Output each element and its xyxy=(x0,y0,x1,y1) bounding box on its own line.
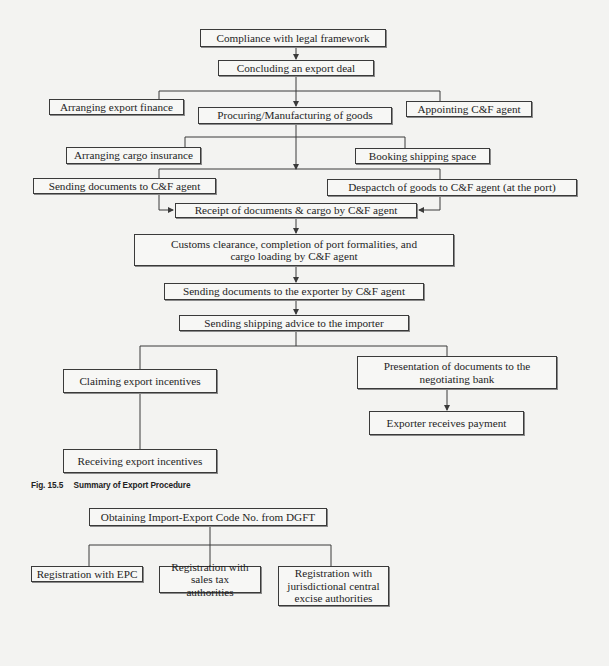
node-customs-clearance: Customs clearance, completion of port fo… xyxy=(134,234,454,266)
node-sending-docs-cf: Sending documents to C&F agent xyxy=(33,178,216,194)
node-exporter-receives-payment: Exporter receives payment xyxy=(369,411,524,435)
node-receiving-incentives: Receiving export incentives xyxy=(63,449,217,473)
figure-title: Summary of Export Procedure xyxy=(74,479,191,490)
node-compliance: Compliance with legal framework xyxy=(200,29,386,47)
figure-caption: Fig. 15.5Summary of Export Procedure xyxy=(31,479,190,490)
node-claiming-incentives: Claiming export incentives xyxy=(63,369,217,393)
node-registration-central-excise: Registration with jurisdictional central… xyxy=(278,566,389,606)
node-cargo-insurance: Arranging cargo insurance xyxy=(66,147,201,164)
node-appointing-cf-agent: Appointing C&F agent xyxy=(406,101,532,117)
node-registration-sales-tax: Registration with sales tax authorities xyxy=(159,566,261,593)
export-procedure-diagram: Compliance with legal framework Concludi… xyxy=(0,0,609,666)
node-obtaining-iec: Obtaining Import-Export Code No. from DG… xyxy=(89,508,327,526)
node-shipping-advice: Sending shipping advice to the importer xyxy=(179,315,409,331)
figure-number: Fig. 15.5 xyxy=(31,479,63,490)
node-concluding-deal: Concluding an export deal xyxy=(218,60,374,76)
node-presentation-docs-bank: Presentation of documents to the negotia… xyxy=(357,356,557,389)
node-booking-shipping-space: Booking shipping space xyxy=(355,148,490,164)
node-despatch-goods: Despactch of goods to C&F agent (at the … xyxy=(327,179,577,196)
node-export-finance: Arranging export finance xyxy=(49,99,184,115)
node-procuring-goods: Procuring/Manufacturing of goods xyxy=(198,107,392,124)
node-receipt-docs-cargo: Receipt of documents & cargo by C&F agen… xyxy=(175,203,417,218)
node-registration-epc: Registration with EPC xyxy=(31,566,143,582)
node-sending-docs-exporter: Sending documents to the exporter by C&F… xyxy=(164,283,424,300)
